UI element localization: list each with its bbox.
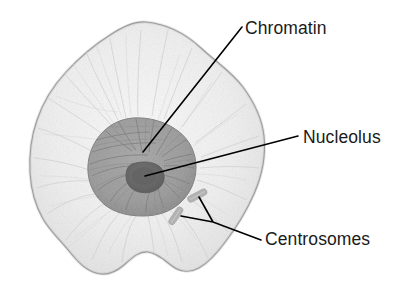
nucleolus-body	[126, 162, 164, 193]
cell-diagram-figure: Chromatin Nucleolus Centrosomes	[0, 0, 418, 300]
label-centrosomes: Centrosomes	[265, 229, 370, 249]
label-nucleolus: Nucleolus	[303, 127, 381, 147]
label-chromatin: Chromatin	[245, 18, 327, 38]
diagram-canvas: Chromatin Nucleolus Centrosomes	[0, 0, 418, 300]
nucleolus-core	[132, 167, 156, 185]
labels: Chromatin Nucleolus Centrosomes	[245, 18, 381, 249]
